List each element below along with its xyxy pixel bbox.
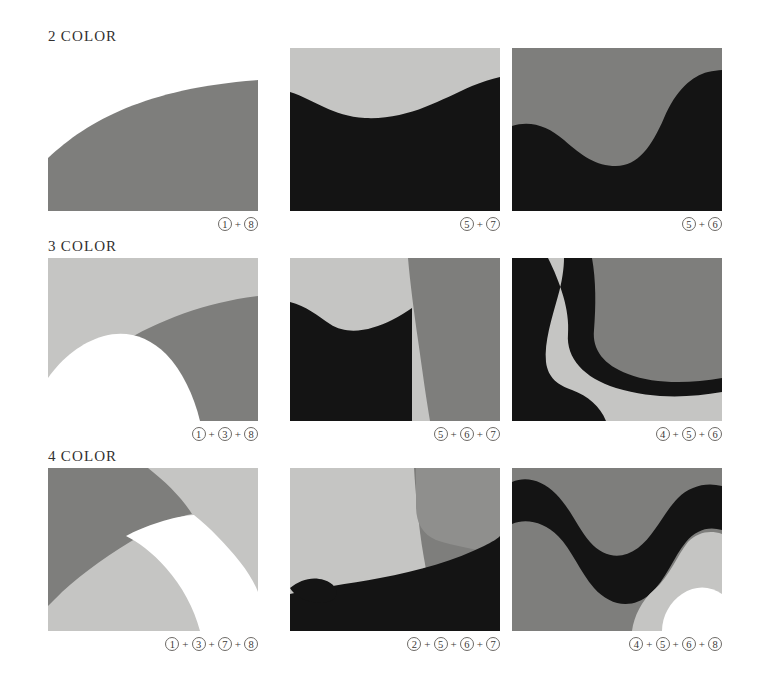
panel-2-3 (512, 258, 722, 421)
caption-number: 3 (192, 637, 206, 651)
caption-1-3: 5+6 (512, 216, 722, 231)
panel-3-1 (48, 468, 258, 631)
caption-plus: + (474, 218, 486, 230)
panel-3-3 (512, 468, 722, 631)
panel-3-2 (290, 468, 500, 631)
panel-1-3-art (512, 48, 722, 211)
caption-number: 1 (165, 637, 179, 651)
caption-number: 7 (486, 427, 500, 441)
caption-plus: + (670, 638, 682, 650)
panel-2-2-art (290, 258, 500, 421)
panel-1-2-art (290, 48, 500, 211)
caption-2-1: 1+3+8 (48, 426, 258, 441)
panel-2-3-art (512, 258, 722, 421)
panel-2-2 (290, 258, 500, 421)
panel-row-two-color (0, 48, 766, 238)
caption-number: 5 (682, 217, 696, 231)
caption-plus: + (670, 428, 682, 440)
caption-3-1: 1+3+7+8 (48, 636, 258, 651)
caption-plus: + (696, 638, 708, 650)
caption-plus: + (232, 428, 244, 440)
caption-number: 5 (434, 427, 448, 441)
section-heading-number: 4 (48, 448, 56, 464)
caption-plus: + (232, 638, 244, 650)
section-heading-word: COLOR (61, 238, 117, 254)
caption-number: 8 (708, 637, 722, 651)
caption-plus: + (474, 428, 486, 440)
color-study-plate: 2 COLOR (0, 0, 766, 680)
caption-number: 7 (218, 637, 232, 651)
panel-3-1-art (48, 468, 258, 631)
caption-number: 5 (682, 427, 696, 441)
caption-number: 8 (244, 217, 258, 231)
caption-plus: + (696, 218, 708, 230)
caption-number: 6 (708, 427, 722, 441)
panel-1-2 (290, 48, 500, 211)
section-heading-four-color: 4 COLOR (48, 448, 117, 465)
caption-1-2: 5+7 (290, 216, 500, 231)
caption-number: 7 (486, 637, 500, 651)
caption-number: 8 (244, 637, 258, 651)
caption-plus: + (643, 638, 655, 650)
caption-number: 4 (629, 637, 643, 651)
caption-3-3: 4+5+6+8 (512, 636, 722, 651)
caption-plus: + (696, 428, 708, 440)
caption-plus: + (232, 218, 244, 230)
panel-2-1 (48, 258, 258, 421)
caption-number: 4 (656, 427, 670, 441)
panel-row-three-color (0, 258, 766, 448)
section-heading-three-color: 3 COLOR (48, 238, 117, 255)
caption-1-1: 1+8 (48, 216, 258, 231)
section-heading-number: 2 (48, 28, 56, 44)
caption-plus: + (421, 638, 433, 650)
caption-number: 3 (218, 427, 232, 441)
caption-number: 1 (218, 217, 232, 231)
caption-plus: + (206, 428, 218, 440)
caption-number: 5 (656, 637, 670, 651)
caption-plus: + (206, 638, 218, 650)
section-heading-number: 3 (48, 238, 56, 254)
caption-number: 8 (244, 427, 258, 441)
panel-3-2-art (290, 468, 500, 631)
caption-2-2: 5+6+7 (290, 426, 500, 441)
caption-number: 2 (407, 637, 421, 651)
caption-number: 5 (434, 637, 448, 651)
section-heading-two-color: 2 COLOR (48, 28, 117, 45)
caption-number: 1 (192, 427, 206, 441)
panel-1-3 (512, 48, 722, 211)
caption-number: 6 (460, 427, 474, 441)
caption-plus: + (179, 638, 191, 650)
panel-3-3-art (512, 468, 722, 631)
caption-number: 7 (486, 217, 500, 231)
caption-2-3: 4+5+6 (512, 426, 722, 441)
caption-plus: + (448, 428, 460, 440)
caption-plus: + (448, 638, 460, 650)
caption-number: 6 (460, 637, 474, 651)
caption-3-2: 2+5+6+7 (290, 636, 500, 651)
panel-1-1 (48, 48, 258, 211)
panel-1-1-art (48, 48, 258, 211)
section-heading-word: COLOR (61, 28, 117, 44)
caption-plus: + (474, 638, 486, 650)
section-heading-word: COLOR (61, 448, 117, 464)
caption-number: 6 (682, 637, 696, 651)
panel-row-four-color (0, 468, 766, 658)
panel-2-1-art (48, 258, 258, 421)
caption-number: 5 (460, 217, 474, 231)
caption-number: 6 (708, 217, 722, 231)
